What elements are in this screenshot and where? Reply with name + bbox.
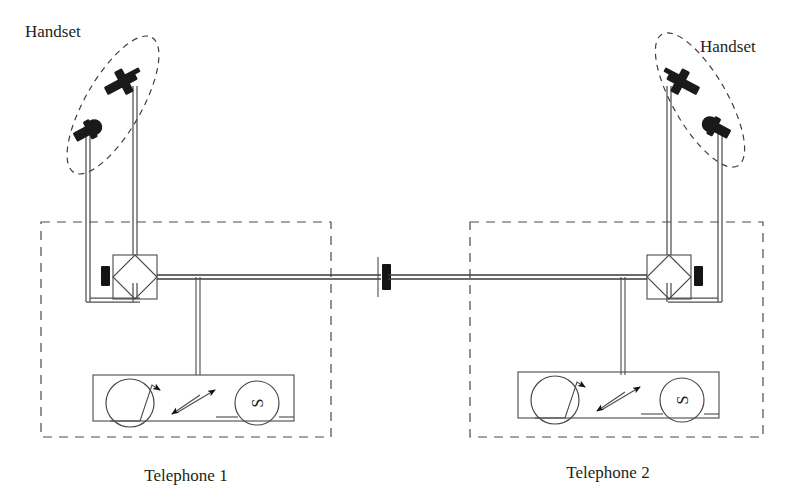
switch-contact-left [110,385,294,421]
telephone-2-caption: Telephone 2 [566,463,649,482]
hybrid-coupler-right [647,255,691,299]
right-station-group: S [388,21,763,437]
telephone-1-caption: Telephone 1 [144,466,227,485]
line-break-marker [378,257,391,297]
terminal-block-icon-left [101,266,110,286]
line-left-segment [157,275,381,279]
coil-icon-right [531,376,579,424]
handset-label-right: Handset [700,37,756,56]
sounder-label-right: S [674,396,691,405]
mouthpiece-icon-right [698,112,734,144]
terminal-block-icon-right [694,266,703,286]
hybrid-coupler-left [113,255,157,299]
sounder-label-left: S [249,399,266,408]
line-right-segment [388,275,647,279]
earpiece-icon-right [657,61,705,103]
drop-left [196,277,200,375]
handset-label-left: Handset [25,22,81,41]
handset-left-ellipse-group [50,23,176,186]
drop-right [621,277,625,375]
left-station-group: S [41,23,381,437]
earpiece-icon [100,61,148,103]
coil-icon-left [106,379,154,427]
diagram-root: S [0,0,800,501]
telephone-diagram-canvas: S [0,0,800,501]
handset-left-outline [50,23,176,186]
switch-contact-right [535,382,719,418]
